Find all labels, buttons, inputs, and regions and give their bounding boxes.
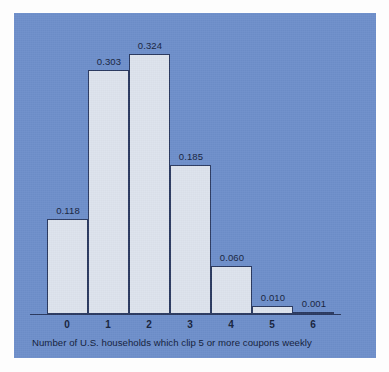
plot-area: 0.118 0.303 0.324 0.185 0.060 0.010 0.00… [14, 13, 376, 358]
bar-value-label-3: 0.185 [165, 151, 217, 162]
x-tick-label-3: 3 [180, 319, 200, 330]
bar-0[interactable] [47, 219, 88, 314]
bar-value-label-2: 0.324 [124, 40, 176, 51]
bar-value-label-0: 0.118 [42, 205, 94, 216]
x-tick-label-4: 4 [221, 319, 241, 330]
bar-5[interactable] [252, 306, 293, 314]
x-axis-line [30, 314, 341, 315]
bar-value-label-1: 0.303 [83, 56, 135, 67]
figure-container: 0.118 0.303 0.324 0.185 0.060 0.010 0.00… [0, 0, 389, 372]
bar-4[interactable] [211, 266, 252, 314]
bar-2[interactable] [129, 54, 170, 314]
x-tick-label-6: 6 [303, 319, 323, 330]
bar-3[interactable] [170, 165, 211, 314]
bar-1[interactable] [88, 70, 129, 314]
x-axis-label: Number of U.S. households which clip 5 o… [32, 337, 312, 348]
x-tick-label-0: 0 [57, 319, 77, 330]
x-tick-label-1: 1 [98, 319, 118, 330]
bar-value-label-6: 0.001 [288, 298, 340, 309]
chart-panel: 0.118 0.303 0.324 0.185 0.060 0.010 0.00… [14, 13, 376, 358]
bar-value-label-4: 0.060 [206, 252, 258, 263]
x-tick-label-2: 2 [139, 319, 159, 330]
x-tick-label-5: 5 [262, 319, 282, 330]
